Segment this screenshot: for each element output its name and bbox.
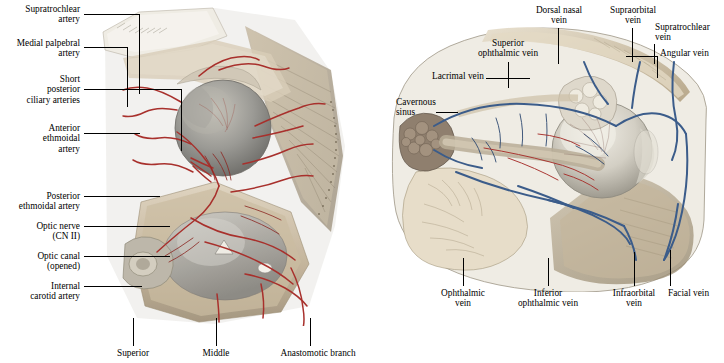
label-anterior-ethmoidal-artery: Anterior ethmoidal artery <box>12 123 80 154</box>
label-posterior-ethmoidal-artery: Posterior ethmoidal artery <box>0 191 80 212</box>
label-inferior-ophthalmic-vein: Inferior ophthalmic vein <box>508 288 588 309</box>
leader-ophthalmic-vein <box>463 258 464 286</box>
leader-anastomotic-branch <box>310 318 311 346</box>
label-superior: Superior <box>106 348 160 358</box>
label-lacrimal-vein: Lacrimal vein <box>432 71 502 81</box>
label-facial-vein: Facial vein <box>668 288 722 298</box>
leader-short-posterior-ciliary <box>84 89 182 90</box>
leader-superior <box>133 318 134 346</box>
label-ophthalmic-vein: Ophthalmic vein <box>432 288 494 309</box>
right-panel-veins: Dorsal nasal vein Supraorbital vein Supr… <box>368 0 724 363</box>
leader-posterior-ethmoidal-artery <box>84 196 160 197</box>
leader-angular-vein-2 <box>657 56 658 78</box>
label-cavernous-sinus: Cavernous sinus <box>396 97 454 118</box>
leader-superior-ophthalmic-vein <box>508 62 509 88</box>
label-superior-ophthalmic-vein: Superior ophthalmic vein <box>468 38 548 59</box>
label-infraorbital-vein: Infraorbital vein <box>604 288 664 309</box>
leader-inferior-ophthalmic-vein <box>548 258 549 286</box>
label-supraorbital-vein: Supraorbital vein <box>603 5 663 26</box>
leader-supratrochlear-artery-2 <box>139 14 140 94</box>
label-middle: Middle <box>192 348 240 358</box>
leader-middle <box>216 318 217 346</box>
figure-page: Supratrochlear artery Medial palpebral a… <box>0 0 724 363</box>
leader-cavernous-sinus <box>436 112 458 113</box>
leader-facial-vein <box>670 250 671 286</box>
label-supratrochlear-artery: Supratrochlear artery <box>2 4 80 25</box>
leader-anterior-ethmoidal-artery <box>84 133 140 134</box>
label-medial-palpebral-artery: Medial palpebral artery <box>0 38 80 59</box>
label-angular-vein: Angular vein <box>660 48 722 58</box>
leader-short-posterior-ciliary-2 <box>181 89 182 151</box>
label-optic-canal: Optic canal (opened) <box>14 251 80 272</box>
label-short-posterior-ciliary-arteries: Short posterior ciliary arteries <box>6 74 80 105</box>
leader-supratrochlear-artery <box>84 14 140 15</box>
leader-dorsal-nasal-vein <box>558 28 559 64</box>
label-anastomotic-branch: Anastomotic branch <box>266 348 370 358</box>
leader-medial-palpebral-artery <box>84 47 128 48</box>
leader-medial-palpebral-artery-2 <box>127 47 128 107</box>
left-panel-arteries: Supratrochlear artery Medial palpebral a… <box>0 0 368 363</box>
label-optic-nerve: Optic nerve (CN II) <box>14 221 80 242</box>
leader-optic-nerve <box>84 226 170 227</box>
label-internal-carotid-artery: Internal carotid artery <box>8 281 80 302</box>
leader-angular-vein <box>626 56 658 57</box>
label-dorsal-nasal-vein: Dorsal nasal vein <box>526 5 592 26</box>
veins-artwork-svg <box>388 22 710 292</box>
leader-supratrochlear-vein <box>654 44 655 64</box>
leader-infraorbital-vein <box>634 252 635 286</box>
label-supratrochlear-vein: Supratrochlear vein <box>655 22 723 43</box>
arteries-artwork-svg <box>95 6 357 326</box>
leader-optic-canal <box>84 256 170 257</box>
arteries-of-orbit-artwork <box>95 6 357 326</box>
leader-lacrimal-vein <box>486 78 530 79</box>
leader-internal-carotid-artery <box>84 286 142 287</box>
veins-of-orbit-artwork <box>388 22 710 292</box>
